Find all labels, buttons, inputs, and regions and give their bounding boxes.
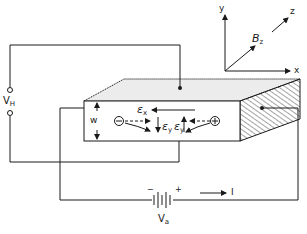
right-contact-dot	[260, 106, 264, 110]
current-label: I	[231, 188, 234, 197]
hall-voltage-label: VH	[3, 96, 15, 108]
battery-minus: −	[147, 186, 154, 194]
hall-terminal-bottom	[8, 111, 13, 116]
ex-field-label: εx	[137, 104, 147, 117]
b-field-arrow	[225, 46, 255, 71]
width-label: w	[90, 116, 97, 125]
battery-plus: +	[175, 186, 182, 194]
ey-field-label-right: εy	[174, 121, 184, 134]
z-axis-label: z	[290, 7, 295, 16]
top-contact-dot	[178, 86, 182, 90]
hall-terminal-top	[8, 88, 13, 93]
y-axis-label: y	[219, 4, 224, 13]
z-axis	[272, 18, 288, 32]
battery-icon	[154, 192, 170, 208]
ey-field-label-left: εy	[162, 121, 172, 134]
battery-voltage-label: Va	[158, 214, 169, 226]
b-field-label: Bz	[252, 33, 263, 46]
x-axis-label: x	[294, 66, 299, 75]
